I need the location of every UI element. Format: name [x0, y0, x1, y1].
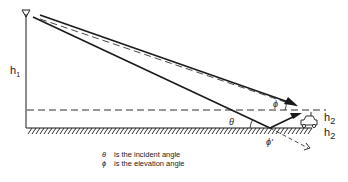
center-dashed-ray [40, 19, 300, 107]
theta-arc [250, 119, 253, 128]
legend-symbol: ϕ [102, 159, 114, 168]
theta-label: θ [229, 117, 234, 127]
phi-label: ϕ [273, 99, 278, 109]
legend-item-phi: ϕis the elevation angle [102, 159, 184, 168]
legend-item-theta: θis the incident angle [102, 150, 180, 159]
ground [26, 128, 312, 134]
legend-symbol: θ [102, 150, 114, 159]
vehicle-receiver-icon [301, 112, 317, 128]
image-marker [304, 143, 310, 150]
legend-text: is the incident angle [114, 150, 180, 159]
direct-ray [40, 15, 298, 106]
tx-height-label: h1 [10, 64, 20, 78]
legend-text: is the elevation angle [114, 159, 184, 168]
reflected-ray [270, 113, 302, 128]
image-height-label: h2 [324, 126, 335, 141]
incident-ray [33, 17, 270, 128]
rx-height-label: h2 [324, 111, 335, 126]
phi-prime-label: ϕ' [266, 137, 273, 147]
